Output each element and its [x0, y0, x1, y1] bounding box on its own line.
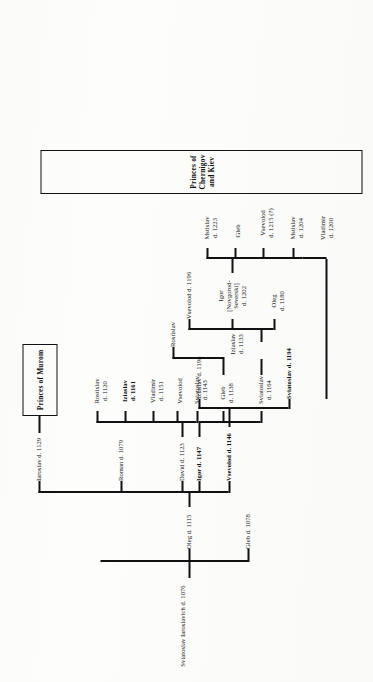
connector-gen1-spine	[100, 560, 248, 562]
connector-vladimir1200	[325, 259, 327, 399]
connector-root-stem	[188, 562, 190, 578]
node-mstislav-1204: Mstislav d. 1204	[288, 208, 303, 248]
connector-iaroslav-to-murom	[38, 416, 40, 433]
connector-oleg-stem	[188, 493, 190, 507]
connector-vsevolod1146	[228, 481, 230, 493]
node-oleg-1115: Oleg d. 1115	[184, 507, 192, 549]
node-gleb-1138: Gleb d. 1138	[218, 375, 233, 411]
connector-rostislav1120	[96, 411, 98, 423]
node-vladimir-1151: Vladimir d. 1151	[148, 371, 163, 411]
node-vsevolod-plain: Vsevolod	[175, 371, 183, 411]
connector-vladimir1200-riser	[302, 257, 326, 259]
connector-igor1147-stem	[198, 423, 200, 437]
node-igor-1147: Igor d. 1147	[194, 437, 202, 481]
genealogy-figure: Sviatoslav Iaroslavich d. 1076 Gleb d. 1…	[0, 0, 373, 682]
connector-oleg1115	[188, 549, 190, 562]
connector-gleb1078	[247, 549, 249, 562]
connector-vsevolod1196	[188, 319, 190, 330]
connector-oleg1180	[273, 319, 275, 330]
node-oleg-1180: Oleg d. 1180	[269, 283, 284, 319]
connector-gleb-plain	[234, 248, 236, 259]
node-roman-1079: Roman d. 1079	[116, 437, 124, 481]
node-sviatoslav-1164: Sviatoslav d. 1164	[256, 369, 271, 411]
node-vsevolod-1146: Vsevolod d. 1146	[224, 427, 232, 481]
node-iaroslav-1129: Iaroslav d. 1129	[34, 433, 42, 481]
node-iziaslav-1161: Iziaslav d. 1161	[120, 371, 135, 411]
tree-canvas: Sviatoslav Iaroslavich d. 1076 Gleb d. 1…	[0, 0, 373, 682]
connector-sviatoslav1164	[260, 411, 262, 423]
connector-sviatoslav1194	[288, 399, 290, 409]
node-david-1123: David d. 1123	[177, 437, 185, 481]
node-vladimir-1200: Vladimir d. 1200	[318, 208, 333, 248]
node-rostislav-1120: Rostislav d. 1120	[92, 371, 107, 411]
node-gleb-1078: Gleb d. 1078	[243, 505, 251, 549]
node-sviatoslav-1194: Sviatoslav d. 1194	[284, 339, 292, 399]
connector-vsevolod1146-stem	[228, 409, 230, 427]
connector-sviatoslav1164-stem	[260, 330, 262, 342]
box-princes-of-chernigov-and-kiev: Princes of Chernigov and Kiev	[40, 150, 362, 194]
connector-igor1147	[198, 481, 200, 493]
connector-iziaslav1198	[198, 399, 200, 409]
connector-iaroslav1129	[38, 481, 40, 493]
connector-gleb1138	[222, 411, 224, 423]
connector-david-stem	[181, 423, 183, 437]
node-iziaslav-1198: Iziaslav d. 1198	[194, 347, 202, 399]
connector-vladimir1151	[152, 411, 154, 423]
connector-vsevolod-children-spine	[198, 407, 288, 409]
connector-iziaslav1133-stem	[222, 359, 224, 375]
connector-igor-novgorod	[231, 319, 233, 330]
connector-igornov-children-spine	[206, 257, 302, 259]
connector-sviatoslav1143	[196, 411, 198, 423]
connector-igornov-stem	[231, 259, 233, 273]
connector-mstislav1204	[292, 248, 294, 259]
node-iziaslav-1133: Iziaslav d. 1133	[228, 324, 243, 364]
node-mstislav-1223: Mstislav d. 1223	[202, 208, 217, 248]
connector-iziaslav1161	[124, 411, 126, 423]
connector-roman1079	[120, 481, 122, 493]
connector-iziaslav1133-up	[172, 357, 224, 359]
node-igor-novgorod-severski: Igor [Novgorod- Severski] d. 1202	[216, 273, 246, 319]
node-gleb-plain: Gleb	[233, 214, 241, 248]
node-sviatoslav-iaroslavich: Sviatoslav Iaroslavich d. 1076	[178, 578, 186, 674]
node-vsevolod-1196: Vsevolod d. 1196	[184, 263, 192, 319]
connector-rostislav-plain	[172, 347, 174, 359]
node-vsevolod-1215: Vsevolod d. 1215 (?)	[258, 198, 273, 248]
node-rostislav-plain: Rostislav	[168, 311, 176, 347]
connector-vsevolod1215	[262, 248, 264, 259]
connector-mstislav1223	[206, 248, 208, 259]
connector-iziaslav1133-stem2	[260, 359, 262, 375]
box-princes-of-murom: Princes of Murom	[22, 344, 57, 416]
connector-david-children-spine	[96, 421, 196, 423]
connector-vsevolod-plain	[176, 411, 178, 423]
connector-david1123	[181, 481, 183, 493]
